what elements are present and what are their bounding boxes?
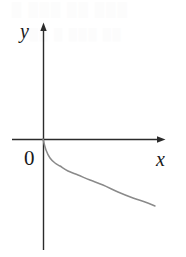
figure-container: █ ███ ██ ███ ██ █ ███ ██ y x 0: [0, 0, 186, 257]
coordinate-plot: y x 0: [0, 0, 186, 257]
x-axis-label: x: [155, 148, 165, 170]
origin-label: 0: [24, 146, 35, 170]
logarithmic-curve: [43, 139, 155, 206]
y-axis-label: y: [18, 20, 29, 43]
